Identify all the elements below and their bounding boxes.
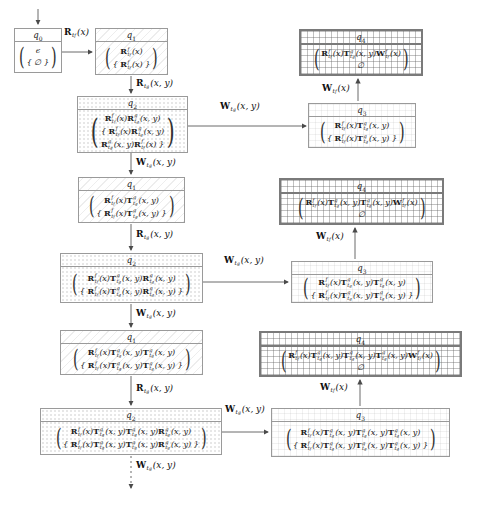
state-label: q4 [301,31,421,45]
math-text: { [80,361,88,370]
state-label: q1 [96,29,167,42]
math-text: } [156,140,164,149]
math-text: } [159,209,167,218]
state-content: (Rftf(x)Tgtg(x, y)Tgtg(x, y)Tgtg(x, y){ … [272,422,449,456]
state-q2-2: q2(Rftf(x)Tgtg(x, y)Rgtg(x, y){ Rftf(x)T… [60,253,203,303]
math-term: Tgtg(x, y) [143,361,175,370]
paren-open-icon: ( [303,278,309,298]
state-label: q2 [78,97,187,110]
edge-label-q1a-q2a: Rtg(x, y) [136,78,173,89]
state-label: q2 [41,409,221,422]
math-text: } [406,291,414,300]
math-term: Rftf(x) [120,47,142,56]
state-label: q1 [61,331,202,344]
edge-label-q3a-q4a: Wtf(x) [322,83,350,94]
math-term: Wtf(x) [320,382,348,392]
math-term: Tgtg(x, y) [110,348,142,357]
edge-label-q2b-q1c: Wtg(x, y) [136,308,176,319]
state-q3-2: q3(Rftf(x)Tgtg(x, y)Tgtg(x, y){ Rftf(x)T… [291,261,433,303]
edge-label-q2a-q1b: Wtg(x, y) [136,157,176,168]
state-q4-1: q4(Rftf(x)Tgtg(x, y)Wftf(x)∅) [299,29,423,76]
state-content: (Rftf(x)Tgtg(x, y)Tgtg(x, y)Tgtg(x, y)Wf… [261,347,460,375]
math-term: Rftf(x) [87,287,109,296]
math-term: Tgtg(x, y) [373,291,405,300]
state-label: q3 [309,104,415,117]
state-content: (Rftf(x){ Rftf(x) }) [96,42,167,74]
state-content: (Rftf(x)Tgtg(x, y)Tgtg(x, y){ Rftf(x)Tgt… [292,275,432,302]
paren-close-icon: ) [201,428,207,448]
math-term: Rftf(x) [301,441,323,450]
paren-close-icon: ) [435,351,441,371]
state-label: q4 [281,180,442,194]
paren-close-icon: ) [430,429,436,449]
math-term: Tgtg(x, y) [328,198,360,207]
edge-label-q2b-q3b: Wtg(x, y) [224,255,264,266]
math-term: Tgtg(x, y) [388,441,420,450]
state-content: (Rftf(x)Tgtg(x, y)Rgtg(x, y){ Rftf(x)Tgt… [61,267,202,302]
paren-open-icon: ( [73,349,79,369]
edge-label-q0-q1: Rtf(x) [64,27,89,38]
math-term: Rftf(x) [318,278,340,287]
edge-label-q3c-q4c: Wtf(x) [320,382,348,393]
paren-close-icon: ) [415,278,421,298]
state-label: q1 [79,178,184,191]
math-term: Tgtg(x, y) [110,274,142,283]
paren-open-icon: ( [105,48,111,68]
math-term: Wtg(x, y) [220,101,260,111]
state-content: (ϵ{ ∅ }) [15,42,61,72]
math-term: Tgtg(x, y) [356,428,388,437]
math-term: Rftf(x) [120,60,142,69]
paren-close-icon: ) [419,198,425,218]
math-term: Tgtg(x, y) [360,198,392,207]
state-q3-1: q3(Rftf(x)Tgtg(x, y){ Rftf(x)Tgtg(x, y) … [308,103,416,148]
state-content: (Rftf(x)Tgtg(x, y){ Rftf(x)Tgtg(x, y) }) [309,117,415,147]
math-text: } [389,134,397,143]
math-term: Tgtg(x, y) [341,291,373,300]
math-term: Tgtg(x, y) [357,121,389,130]
state-label: q0 [15,29,61,42]
edge-label-q1c-q2c: Rtg(x, y) [136,383,173,394]
math-term: Rgtg(x, y) [142,274,175,283]
state-content: (Rftf(x)Rgtg(x, y){ Rftf(x)Rgtg(x, y)Rgt… [78,110,187,152]
math-text: } [175,361,183,370]
math-term: Tgtg(x, y) [357,134,389,143]
paren-open-icon: ( [319,122,325,142]
math-term: Rftf(x) [109,127,131,136]
math-term: Rgtg(x, y) [127,114,160,123]
math-term: Rftf(x) [305,198,327,207]
math-term: Tgtg(x, y) [93,440,125,449]
state-label: q4 [261,333,460,347]
math-text: { [293,441,301,450]
math-term: Rgtg(x, y) [142,287,175,296]
math-term: Rtf(x) [64,27,89,37]
paren-close-icon: ) [185,274,191,294]
paren-close-icon: ) [399,122,405,142]
math-term: Rgtg(x, y) [158,427,191,436]
state-label: q2 [61,254,202,267]
state-q1-2: q1(Rftf(x)Tgtg(x, y){ Rftf(x)Tgtg(x, y) … [78,177,185,223]
edge-label-q2c-q3c: Wtg(x, y) [225,404,265,415]
state-content: (Rftf(x)Tgtg(x, y)Wftf(x)∅) [301,45,421,74]
math-term: Rftf(x) [335,134,357,143]
edge-label-q2c-continuation: Wtg(x, y) [136,460,176,471]
edge-label-q3b-q4b: Wtf(x) [316,231,344,242]
state-content: (Rftf(x)Tgtg(x, y)Tgtg(x, y){ Rftf(x)Tgt… [61,344,202,374]
paren-close-icon: ) [185,349,191,369]
state-content: (Rftf(x)Tgtg(x, y)Tgtg(x, y)Rgtg(x, y){ … [41,422,221,454]
paren-open-icon: ( [56,428,62,448]
math-term: Rgtg(x, y) [158,440,191,449]
math-term: Wtg(x, y) [136,157,176,167]
math-text: ∅ [357,61,364,70]
math-term: Tgtg(x, y) [126,427,158,436]
math-text: { [63,440,71,449]
math-term: Rftf(x) [104,196,126,205]
math-term: Rftf(x) [88,348,110,357]
math-text: ∅ [358,210,365,219]
edge-label-q1b-q2b: Rtg(x, y) [136,229,173,240]
math-term: Rgtg(x, y) [131,127,164,136]
math-term: Rftf(x) [105,114,127,123]
math-term: Rftf(x) [288,351,310,360]
math-term: Wftf(x) [376,49,401,58]
math-term: Rftf(x) [88,361,110,370]
edge-label-q2a-q3a: Wtg(x, y) [220,101,260,112]
